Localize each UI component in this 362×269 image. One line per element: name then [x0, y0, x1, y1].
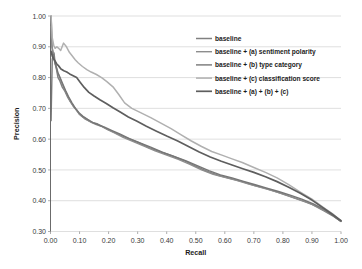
- x-tick-label-1.00: 1.00: [334, 237, 348, 244]
- y-tick-label-0.80: 0.80: [32, 74, 46, 81]
- x-tick-labels-group: 0.000.100.200.300.400.500.600.700.800.90…: [44, 237, 348, 244]
- y-tick-label-0.70: 0.70: [32, 105, 46, 112]
- x-tick-label-0.90: 0.90: [305, 237, 319, 244]
- y-tick-labels-group: 0.300.400.500.600.700.800.901.00: [32, 13, 46, 236]
- y-tick-label-0.90: 0.90: [32, 43, 46, 50]
- y-tick-label-1.00: 1.00: [32, 13, 46, 20]
- x-tick-label-0.30: 0.30: [131, 237, 145, 244]
- legend: baselinebaseline + (a) sentiment polarit…: [196, 35, 320, 96]
- x-tick-label-0.50: 0.50: [189, 237, 203, 244]
- x-axis-title: Recall: [185, 248, 206, 257]
- x-tick-label-0.60: 0.60: [218, 237, 232, 244]
- x-tick-label-0.10: 0.10: [73, 237, 87, 244]
- legend-label-0: baseline: [215, 35, 242, 42]
- x-tick-label-0.00: 0.00: [44, 237, 58, 244]
- x-tick-label-0.40: 0.40: [160, 237, 174, 244]
- legend-label-2: baseline + (b) type category: [215, 61, 302, 69]
- chart-canvas: 0.000.100.200.300.400.500.600.700.800.90…: [0, 0, 362, 269]
- y-tick-label-0.30: 0.30: [32, 228, 46, 235]
- legend-label-3: baseline + (c) classification score: [215, 75, 320, 83]
- x-tick-label-0.70: 0.70: [247, 237, 261, 244]
- y-tick-label-0.50: 0.50: [32, 167, 46, 174]
- legend-label-1: baseline + (a) sentiment polarity: [215, 48, 316, 56]
- y-tick-label-0.40: 0.40: [32, 197, 46, 204]
- y-axis-title: Precision: [12, 108, 21, 140]
- precision-recall-chart-figure: 0.000.100.200.300.400.500.600.700.800.90…: [0, 0, 362, 269]
- x-tick-label-0.80: 0.80: [276, 237, 290, 244]
- y-tick-label-0.60: 0.60: [32, 136, 46, 143]
- x-tick-label-0.20: 0.20: [102, 237, 116, 244]
- legend-label-4: baseline + (a) + (b) + (c): [215, 88, 288, 96]
